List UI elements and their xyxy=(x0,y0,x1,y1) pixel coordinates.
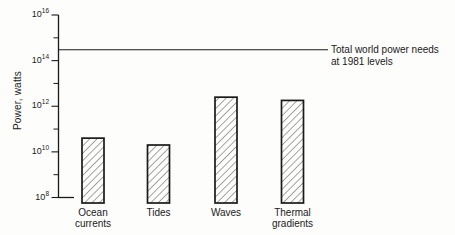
category-label-thermal-gradients: Thermalgradients xyxy=(272,207,313,229)
y-tick-label: 1014 xyxy=(18,56,49,65)
y-tick-label: 1016 xyxy=(18,10,49,19)
y-tick-label: 1012 xyxy=(18,101,49,110)
bar-ocean-currents xyxy=(82,138,104,203)
y-axis xyxy=(52,15,75,198)
category-label-ocean-currents: Oceancurrents xyxy=(75,207,111,229)
y-tick-label: 108 xyxy=(18,193,49,202)
category-label-tides: Tides xyxy=(146,207,170,218)
y-tick-label: 1010 xyxy=(18,147,49,156)
bars xyxy=(82,97,304,203)
reference-line-label-line2: at 1981 levels xyxy=(331,56,439,68)
chart-canvas xyxy=(0,0,455,235)
category-label-waves: Waves xyxy=(211,207,241,218)
chart: Power, watts 1081010101210141016 Oceancu… xyxy=(0,0,455,235)
bar-waves xyxy=(215,97,237,203)
bar-tides xyxy=(148,145,170,203)
reference-line-label: Total world power needs at 1981 levels xyxy=(331,44,439,67)
reference-line-label-line1: Total world power needs xyxy=(331,44,439,56)
bar-thermal-gradients xyxy=(282,100,304,203)
